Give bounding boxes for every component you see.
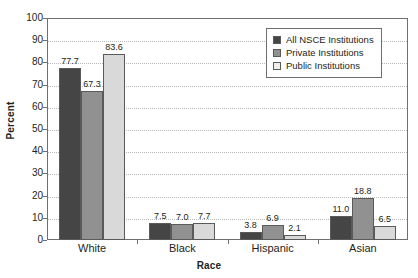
legend-item[interactable]: Public Institutions (273, 60, 374, 72)
gridline (48, 219, 407, 220)
legend-item[interactable]: All NSCE Institutions (273, 34, 374, 46)
y-axis-tick-mark (43, 240, 47, 241)
legend-swatch-icon (273, 62, 281, 70)
x-axis-title: Race (0, 260, 418, 271)
legend: All NSCE Institutions Private Institutio… (266, 28, 382, 78)
x-axis-category-labels: WhiteBlackHispanicAsian (47, 243, 408, 259)
bar-chart: Percent 0102030405060708090100 77.767.38… (0, 0, 418, 278)
y-axis-tick-labels: 0102030405060708090100 (18, 18, 43, 240)
gridline (48, 197, 407, 198)
legend-item-label: Public Institutions (286, 61, 360, 71)
y-axis-title-text: Percent (5, 101, 16, 139)
legend-swatch-icon (273, 49, 281, 57)
gridline (48, 152, 407, 153)
gridline (48, 174, 407, 175)
x-axis-category-label: Black (169, 243, 196, 254)
legend-item-label: Private Institutions (286, 48, 364, 58)
gridline (48, 108, 407, 109)
x-axis-category-label: Asian (349, 243, 377, 254)
x-axis-category-label: White (78, 243, 106, 254)
y-axis-title: Percent (2, 0, 18, 240)
gridline (48, 86, 407, 87)
legend-item-label: All NSCE Institutions (286, 35, 374, 45)
legend-swatch-icon (273, 36, 281, 44)
legend-item[interactable]: Private Institutions (273, 47, 374, 59)
x-axis-category-label: Hispanic (252, 243, 294, 254)
gridline (48, 130, 407, 131)
